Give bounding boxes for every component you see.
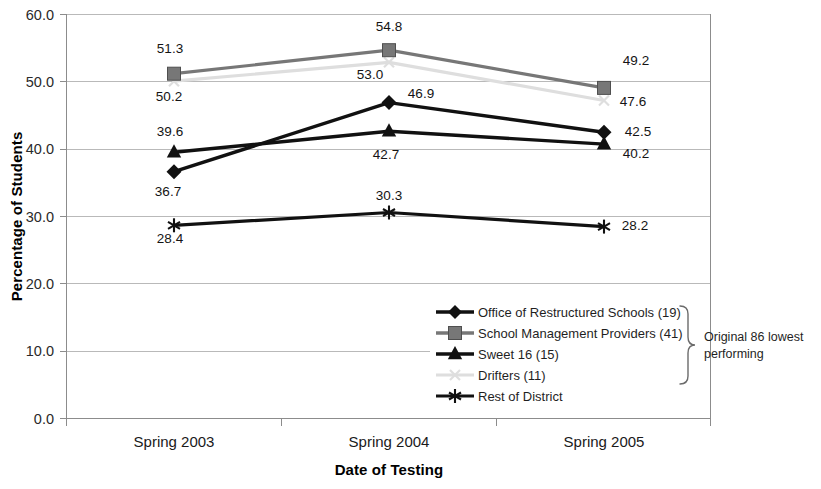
curly-brace-icon	[680, 306, 695, 384]
legend-label: Rest of District	[478, 389, 563, 404]
x-tick-label: Spring 2004	[349, 433, 430, 450]
data-label: 39.6	[157, 124, 183, 139]
data-label: 42.5	[625, 124, 651, 139]
legend-label: Office of Restructured Schools (19)	[478, 305, 681, 320]
series-office-of-restructured-schools	[167, 95, 612, 179]
data-label: 53.0	[357, 67, 383, 82]
data-label: 28.2	[622, 218, 648, 233]
legend-item-rest-of-district[interactable]: Rest of District	[436, 389, 563, 404]
y-tick-label: 30.0	[26, 209, 54, 225]
x-axis-title: Date of Testing	[335, 461, 444, 478]
x-tick-label: Spring 2005	[564, 433, 645, 450]
legend-label: Drifters (11)	[478, 368, 546, 383]
x-tick-label: Spring 2003	[134, 433, 215, 450]
y-tick-label: 20.0	[26, 276, 54, 292]
y-tick-label: 50.0	[26, 74, 54, 90]
data-label: 36.7	[155, 184, 181, 199]
line-chart: 60.0 50.0 40.0 30.0 20.0 10.0 0.0 Percen…	[0, 0, 821, 489]
square-marker-icon	[449, 327, 462, 340]
x-tick-marks	[67, 419, 711, 427]
y-tick-marks	[60, 15, 66, 419]
chart-canvas: 60.0 50.0 40.0 30.0 20.0 10.0 0.0 Percen…	[0, 0, 821, 489]
data-label: 49.2	[623, 53, 649, 68]
bracket-label-line2: performing	[704, 347, 764, 361]
data-label: 30.3	[376, 188, 402, 203]
y-tick-labels: 60.0 50.0 40.0 30.0 20.0 10.0 0.0	[26, 7, 54, 427]
y-tick-label: 40.0	[26, 141, 54, 157]
series-markers-rod	[168, 206, 610, 234]
data-label: 42.7	[373, 147, 399, 162]
legend-label: Sweet 16 (15)	[478, 347, 559, 362]
group-bracket-annotation: Original 86 lowest performing	[680, 306, 804, 384]
y-tick-label: 0.0	[34, 411, 54, 427]
y-tick-label: 60.0	[26, 7, 54, 23]
data-label: 46.9	[408, 86, 434, 101]
series-markers-ors	[167, 95, 612, 179]
y-tick-label: 10.0	[26, 343, 54, 359]
legend-item-sweet-16[interactable]: Sweet 16 (15)	[436, 346, 559, 362]
series-school-management-providers	[168, 44, 611, 95]
data-label: 50.2	[156, 89, 182, 104]
series-rest-of-district	[168, 206, 610, 234]
x-tick-labels: Spring 2003 Spring 2004 Spring 2005	[134, 433, 645, 450]
data-label: 54.8	[376, 19, 402, 34]
data-label: 40.2	[623, 146, 649, 161]
series-markers-smp	[168, 44, 611, 95]
data-label: 47.6	[620, 94, 646, 109]
legend: Office of Restructured Schools (19) Scho…	[430, 297, 683, 409]
bracket-label-line1: Original 86 lowest	[704, 330, 804, 344]
legend-label: School Management Providers (41)	[478, 326, 683, 341]
data-label: 51.3	[157, 41, 183, 56]
y-axis-title: Percentage of Students	[8, 132, 25, 302]
data-label: 28.4	[157, 231, 184, 246]
